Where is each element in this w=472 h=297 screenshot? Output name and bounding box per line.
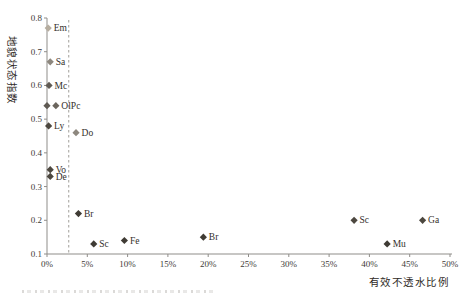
data-point-diamond: [384, 240, 391, 247]
data-point-diamond: [45, 122, 52, 129]
data-point-diamond: [350, 217, 357, 224]
x-tick-label: 0%: [41, 259, 54, 269]
y-tick-label: 0.8: [31, 13, 43, 23]
data-point-diamond: [45, 82, 52, 89]
x-tick-label: 40%: [361, 259, 378, 269]
x-tick-label: 25%: [240, 259, 257, 269]
data-point-diamond: [45, 25, 52, 32]
data-point-label: Em: [54, 23, 68, 33]
chart-canvas: 0.10.20.30.40.50.60.70.80%5%10%15%20%25%…: [0, 0, 472, 297]
data-point-label: Mc: [55, 81, 68, 91]
scatter-chart-figure: 0.10.20.30.40.50.60.70.80%5%10%15%20%25%…: [0, 0, 472, 297]
data-point-diamond: [75, 210, 82, 217]
data-point-diamond: [52, 102, 59, 109]
x-tick-label: 20%: [200, 259, 217, 269]
data-point-label: Sc: [360, 215, 370, 225]
data-point-diamond: [90, 240, 97, 247]
y-tick-label: 0.6: [31, 80, 43, 90]
y-tick-label: 0.1: [31, 249, 42, 259]
x-tick-label: 5%: [81, 259, 94, 269]
data-point-diamond: [47, 173, 54, 180]
x-tick-label: 45%: [401, 259, 418, 269]
data-point-label: OlPc: [61, 101, 80, 111]
data-point-diamond: [419, 217, 426, 224]
y-tick-label: 0.4: [31, 148, 43, 158]
data-points-layer: EmSaMcOlPcLyDoVoDeBrScFeBrScMuGa: [43, 23, 440, 249]
y-tick-label: 0.7: [31, 47, 43, 57]
data-point-label: Sc: [99, 239, 109, 249]
axes-layer: 0.10.20.30.40.50.60.70.80%5%10%15%20%25%…: [31, 13, 459, 269]
data-point-diamond: [47, 58, 54, 65]
data-point-diamond: [121, 237, 128, 244]
data-point-diamond: [72, 129, 79, 136]
data-point-diamond: [43, 102, 50, 109]
data-point-label: Fe: [130, 236, 140, 246]
data-point-diamond: [47, 166, 54, 173]
data-point-label: Ga: [428, 215, 440, 225]
data-point-label: Br: [209, 232, 219, 242]
y-tick-label: 0.5: [31, 114, 43, 124]
data-point-label: Br: [84, 209, 94, 219]
data-point-label: Do: [82, 128, 94, 138]
x-tick-label: 35%: [321, 259, 338, 269]
y-axis-label: 地貌状态指数: [6, 36, 18, 105]
cropped-caption-artifact: [22, 290, 214, 293]
data-point-label: De: [56, 172, 67, 182]
x-tick-label: 50%: [442, 259, 459, 269]
y-tick-label: 0.3: [31, 182, 43, 192]
data-point-label: Mu: [393, 239, 406, 249]
x-tick-label: 10%: [119, 259, 136, 269]
data-point-label: Ly: [54, 121, 64, 131]
x-axis-label: 有效不透水比例: [369, 276, 450, 288]
x-tick-label: 30%: [281, 259, 298, 269]
data-point-label: Sa: [56, 57, 66, 67]
x-tick-label: 15%: [160, 259, 177, 269]
data-point-diamond: [200, 234, 207, 241]
y-tick-label: 0.2: [31, 215, 42, 225]
